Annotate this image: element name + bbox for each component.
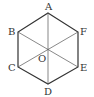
vertex-label-E: E (80, 62, 87, 73)
center-label-O: O (38, 53, 46, 64)
hexagon-diagram: A F E D C B O (0, 0, 94, 97)
vertex-label-B: B (8, 26, 15, 37)
vertex-label-F: F (80, 26, 87, 37)
vertex-label-D: D (44, 86, 52, 97)
vertex-label-A: A (44, 1, 53, 12)
vertex-label-C: C (8, 62, 16, 73)
